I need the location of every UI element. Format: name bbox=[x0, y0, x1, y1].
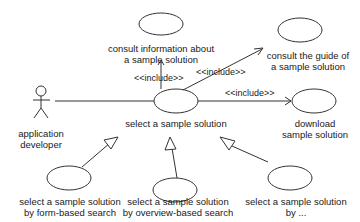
form-search-line2: by form-based search bbox=[14, 207, 126, 218]
include-label-info: <<include>> bbox=[134, 73, 184, 83]
use-case-select-ellipse[interactable] bbox=[154, 89, 198, 113]
use-case-other-ellipse[interactable] bbox=[268, 166, 312, 190]
overview-search-line2: by overview-based search bbox=[122, 207, 234, 218]
actor-label-line2: developer bbox=[10, 139, 72, 150]
form-search-label: select a sample solution by form-based s… bbox=[14, 196, 126, 218]
other-label: select a sample solution by ... bbox=[240, 196, 352, 218]
other-line2: by ... bbox=[240, 207, 352, 218]
use-case-consult-info-ellipse[interactable] bbox=[139, 13, 183, 35]
actor-label: application developer bbox=[10, 128, 72, 150]
download-line1: download bbox=[270, 118, 360, 129]
include-label-download: <<include>> bbox=[225, 88, 275, 98]
use-case-diagram bbox=[0, 0, 360, 222]
use-case-consult-guide-ellipse[interactable] bbox=[278, 18, 322, 42]
use-case-download-ellipse[interactable] bbox=[292, 89, 336, 113]
other-line1: select a sample solution bbox=[240, 196, 352, 207]
include-label-guide: <<include>> bbox=[196, 67, 246, 77]
consult-guide-line1: consult the guide of bbox=[258, 50, 358, 61]
consult-info-line2: a sample solution bbox=[101, 54, 221, 65]
overview-search-line1: select a sample solution bbox=[122, 196, 234, 207]
select-line1: select a sample solution bbox=[116, 118, 236, 129]
use-case-form-search-ellipse[interactable] bbox=[47, 166, 91, 190]
consult-info-line1: consult information about bbox=[101, 43, 221, 54]
form-search-line1: select a sample solution bbox=[14, 196, 126, 207]
consult-guide-label: consult the guide of a sample solution bbox=[258, 50, 358, 72]
consult-guide-line2: a sample solution bbox=[258, 61, 358, 72]
select-label: select a sample solution bbox=[116, 118, 236, 129]
generalization-arrow-overview bbox=[165, 137, 177, 178]
overview-search-label: select a sample solution by overview-bas… bbox=[122, 196, 234, 218]
actor-stick-figure-icon bbox=[33, 86, 50, 118]
include-arrow-download bbox=[198, 97, 291, 105]
generalization-arrow-form bbox=[82, 137, 118, 167]
consult-info-label: consult information about a sample solut… bbox=[101, 43, 221, 65]
actor-label-line1: application bbox=[10, 128, 72, 139]
generalization-arrow-other bbox=[220, 137, 268, 162]
download-label: download sample solution bbox=[270, 118, 360, 140]
download-line2: sample solution bbox=[270, 129, 360, 140]
